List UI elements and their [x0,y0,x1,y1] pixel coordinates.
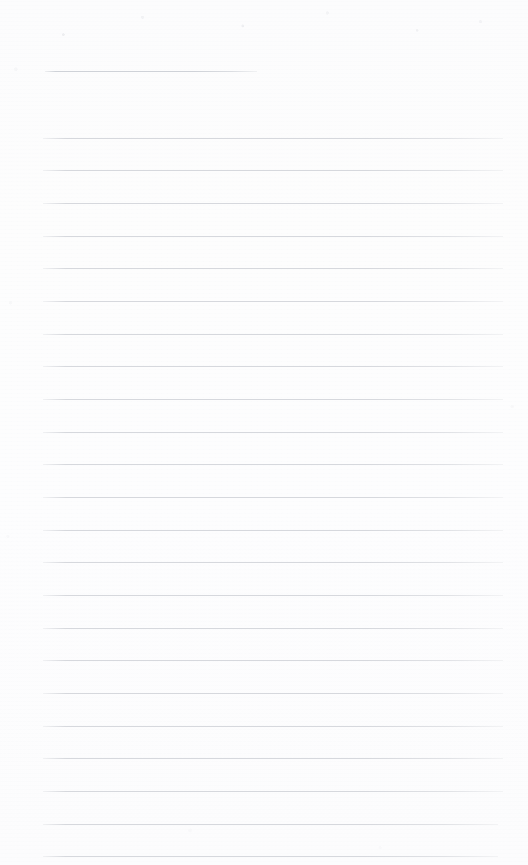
rule-24 [43,856,498,857]
rule-15 [43,562,503,563]
rule-22 [43,791,503,792]
rule-23 [43,824,498,825]
rule-3 [43,170,503,171]
rule-12 [43,464,503,465]
rule-21 [43,758,503,759]
rule-1 [45,71,257,72]
rule-18 [43,660,503,661]
rule-6 [43,268,503,269]
rule-13 [43,497,503,498]
rule-5 [43,236,503,237]
rule-20 [43,726,503,727]
rule-16 [43,595,503,596]
rule-14 [43,530,503,531]
rule-9 [43,366,503,367]
rule-7 [43,301,503,302]
lined-paper-page [0,0,528,865]
rule-2 [43,138,503,139]
rule-10 [43,399,503,400]
rule-4 [43,203,503,204]
rule-17 [43,628,503,629]
rule-8 [43,334,503,335]
rule-19 [43,693,503,694]
rule-11 [43,432,503,433]
